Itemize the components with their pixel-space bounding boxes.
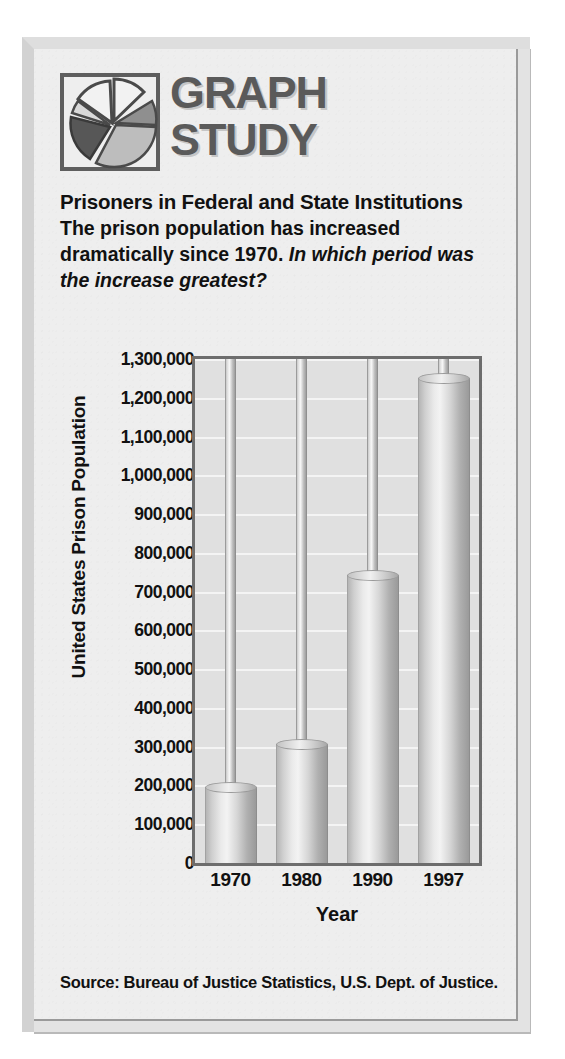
bar-cylinder [418, 378, 470, 863]
y-axis-tick: 600,000 [74, 620, 194, 641]
bar-tube [296, 359, 307, 748]
bar-cap [347, 570, 399, 581]
logo-line-graph: GRAPH [170, 69, 476, 116]
bar-cap [418, 373, 470, 384]
x-axis-tick: 1997 [411, 869, 477, 891]
y-axis-tick: 500,000 [74, 659, 194, 680]
y-axis-tick-labels: 1,300,0001,200,0001,100,0001,000,000900,… [74, 311, 194, 871]
logo-line-study: STUDY [170, 116, 476, 163]
y-axis-tick: 900,000 [74, 504, 194, 525]
bar-1997 [415, 359, 473, 863]
y-axis-tick: 1,300,000 [74, 349, 194, 370]
x-axis-tick: 1970 [198, 869, 264, 891]
y-axis-tick: 0 [74, 853, 194, 874]
bar-tube [225, 359, 236, 791]
bar-cylinder [347, 575, 399, 863]
bars-layer [195, 359, 479, 863]
pie-chart-icon [66, 75, 162, 171]
page-title: Prisoners in Federal and State Instituti… [60, 190, 463, 213]
y-axis-tick: 400,000 [74, 697, 194, 718]
y-axis-tick: 700,000 [74, 581, 194, 602]
bar-cap [205, 782, 257, 793]
x-axis-tick-labels: 1970198019901997 [192, 869, 482, 899]
y-axis-tick: 300,000 [74, 736, 194, 757]
y-axis-tick: 1,200,000 [74, 387, 194, 408]
x-axis-title: Year [192, 903, 482, 926]
y-axis-tick: 1,000,000 [74, 465, 194, 486]
source-note: Source: Bureau of Justice Statistics, U.… [60, 973, 500, 992]
bar-chart: United States Prison Population 1,300,00… [34, 311, 518, 971]
y-axis-tick: 1,100,000 [74, 426, 194, 447]
y-axis-tick: 800,000 [74, 542, 194, 563]
bar-1990 [344, 359, 402, 863]
graph-study-figure: GRAPH STUDY Prisoners in Federal and Sta… [0, 0, 565, 1059]
logo-wordmark: GRAPH STUDY [170, 69, 470, 163]
bar-cylinder [205, 787, 257, 863]
bar-cylinder [276, 744, 328, 863]
bar-cap [276, 739, 328, 750]
bar-tube [367, 359, 378, 579]
graph-study-logo: GRAPH STUDY [60, 71, 480, 175]
graph-study-panel: GRAPH STUDY Prisoners in Federal and Sta… [34, 49, 518, 1021]
x-axis-tick: 1980 [269, 869, 335, 891]
bar-1980 [273, 359, 331, 863]
x-axis-tick: 1990 [340, 869, 406, 891]
headline-block: Prisoners in Federal and State Instituti… [60, 189, 490, 293]
bar-1970 [202, 359, 260, 863]
y-axis-tick: 100,000 [74, 814, 194, 835]
y-axis-tick: 200,000 [74, 775, 194, 796]
plot-area [192, 356, 482, 866]
